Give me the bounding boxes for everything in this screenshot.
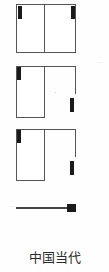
scan-speck	[55, 92, 56, 93]
caption-label: 中国当代	[0, 250, 109, 265]
hinge-top-left-icon	[18, 6, 22, 19]
drawing-canvas: 中国当代	[0, 0, 109, 272]
hinge-top-right-icon	[71, 6, 75, 19]
figure-3-single-leaf-open-right[interactable]	[16, 129, 76, 181]
scale-bar[interactable]	[16, 202, 76, 214]
figure-2-single-leaf-open-right[interactable]	[16, 66, 76, 118]
scan-speck	[99, 62, 100, 63]
scan-speck	[12, 206, 13, 207]
hinge-top-left-icon	[17, 67, 21, 80]
handle-mid-right-icon	[70, 98, 74, 112]
hinge-top-left-icon	[17, 130, 21, 143]
figure-3-right-wall	[75, 129, 76, 157]
handle-mid-right-icon	[70, 161, 74, 175]
figure-1-double-leaf-frame[interactable]	[16, 4, 76, 53]
figure-2-right-wall	[75, 66, 76, 94]
scale-bar-handle[interactable]	[67, 204, 76, 212]
